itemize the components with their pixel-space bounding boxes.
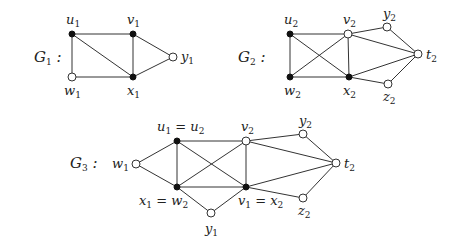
graph-g1: u1v1y1w1x1G1 :: [34, 12, 194, 100]
edge-x2-z2: [349, 77, 388, 84]
edge-v1-y1: [133, 34, 173, 57]
vertex-label-u2: u2: [284, 12, 298, 29]
edge-x1-y1: [133, 57, 173, 77]
edge-v2-t2: [348, 34, 418, 54]
vertex-label-w1: w1: [64, 83, 81, 100]
edge-w1-u1=u2: [136, 141, 177, 164]
vertex-v2: [242, 137, 250, 145]
vertex-u1: [69, 31, 75, 37]
edge-v1=x2-t2: [246, 163, 336, 187]
vertex-w1: [132, 160, 140, 168]
vertex-label-w2: w2: [284, 83, 301, 100]
vertex-label-y2: y2: [382, 6, 396, 23]
vertex-label-t2: t2: [426, 47, 437, 64]
vertex-label-z2: z2: [297, 203, 311, 220]
vertex-v2: [344, 30, 352, 38]
vertex-label-y1: y1: [204, 221, 218, 238]
vertex-y1: [207, 209, 215, 217]
vertex-label-y2: y2: [298, 113, 312, 130]
edge-x2-t2: [349, 54, 418, 77]
graph-diagram: u1v1y1w1x1G1 : u2v2y2t2w2x2z2G2 : w1u1 =…: [0, 0, 452, 248]
vertex-label-x1: x1: [127, 83, 140, 100]
edge-z2-t2: [303, 163, 336, 198]
vertex-label-v2: v2: [343, 12, 356, 29]
vertex-x2: [346, 74, 352, 80]
vertex-label-t2: t2: [344, 156, 355, 173]
vertex-t2: [414, 50, 422, 58]
edge-v2-y2: [246, 134, 303, 141]
vertex-z2: [299, 194, 307, 202]
edge-v2-x2: [348, 34, 349, 77]
vertex-y2: [383, 23, 391, 31]
graph-g2: u2v2y2t2w2x2z2G2 :: [238, 6, 437, 106]
edge-u1-x1: [72, 34, 133, 77]
graph-label-g1: G1 :: [34, 48, 62, 67]
vertex-label-v2: v2: [241, 119, 254, 136]
vertex-w1: [68, 73, 76, 81]
graph-g3: w1u1 = u2v2y2t2x1 = w2v1 = x2z2y1G3 :: [70, 113, 355, 238]
vertex-w2: [287, 74, 293, 80]
vertex-label-y1: y1: [180, 49, 194, 66]
vertex-z2: [384, 80, 392, 88]
vertex-x1=w2: [174, 184, 180, 190]
vertex-y1: [169, 53, 177, 61]
vertex-label-u1: u1: [66, 12, 80, 29]
vertex-label-v1=x2: v1 = x2: [238, 193, 283, 210]
vertex-label-x2: x2: [343, 83, 356, 100]
vertex-u1=u2: [174, 138, 180, 144]
vertex-label-z2: z2: [382, 89, 396, 106]
vertex-label-w1: w1: [112, 156, 129, 173]
vertex-v1: [130, 31, 136, 37]
edge-w1-x1=w2: [136, 164, 177, 187]
vertex-label-u1=u2: u1 = u2: [157, 119, 204, 136]
vertex-t2: [332, 159, 340, 167]
graph-label-g3: G3 :: [70, 154, 98, 173]
edge-v2-t2: [246, 141, 336, 163]
vertex-u2: [287, 31, 293, 37]
vertex-v1=x2: [243, 184, 249, 190]
vertex-label-x1=w2: x1 = w2: [139, 193, 188, 210]
vertex-x1: [130, 74, 136, 80]
vertex-y2: [299, 130, 307, 138]
vertex-label-v1: v1: [127, 12, 140, 29]
graph-label-g2: G2 :: [238, 48, 266, 67]
